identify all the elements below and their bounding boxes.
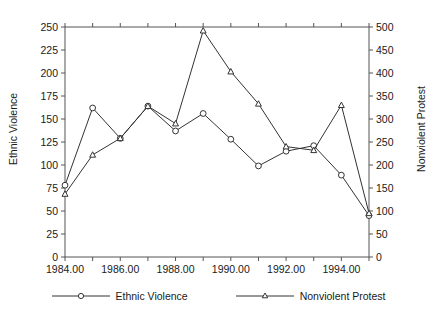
svg-text:50: 50 [376, 228, 388, 240]
svg-text:400: 400 [376, 67, 394, 79]
svg-text:50: 50 [46, 205, 58, 217]
svg-text:1988.00: 1988.00 [157, 263, 195, 275]
svg-text:150: 150 [376, 182, 394, 194]
svg-text:500: 500 [376, 21, 394, 33]
svg-text:1994.00: 1994.00 [322, 263, 360, 275]
legend-swatch-circle-icon [52, 290, 110, 302]
svg-text:0: 0 [376, 251, 382, 263]
legend-label-ethnic-violence: Ethnic Violence [116, 290, 188, 302]
chart-container: Ethnic Violence Nonviolent Protest 02550… [0, 0, 437, 318]
svg-text:0: 0 [52, 251, 58, 263]
svg-text:450: 450 [376, 44, 394, 56]
svg-text:225: 225 [40, 44, 58, 56]
legend-swatch-triangle-icon [236, 290, 294, 302]
svg-text:75: 75 [46, 182, 58, 194]
legend-item-ethnic-violence[interactable]: Ethnic Violence [52, 290, 188, 302]
plot-frame [65, 27, 369, 257]
svg-text:25: 25 [46, 228, 58, 240]
legend-label-nonviolent-protest: Nonviolent Protest [300, 290, 386, 302]
chart-plot-area: 0255075100125150175200225250 05010015020… [0, 0, 437, 318]
legend-item-nonviolent-protest[interactable]: Nonviolent Protest [236, 290, 386, 302]
y-axis-left-ticks: 0255075100125150175200225250 [40, 21, 65, 263]
y-axis-right-ticks: 050100150200250300350400450500 [369, 21, 394, 263]
svg-text:200: 200 [40, 67, 58, 79]
svg-text:250: 250 [40, 21, 58, 33]
svg-text:350: 350 [376, 90, 394, 102]
svg-text:150: 150 [40, 113, 58, 125]
svg-text:125: 125 [40, 136, 58, 148]
svg-text:300: 300 [376, 113, 394, 125]
svg-text:250: 250 [376, 136, 394, 148]
svg-text:1990.00: 1990.00 [212, 263, 250, 275]
svg-text:1992.00: 1992.00 [267, 263, 305, 275]
svg-text:175: 175 [40, 90, 58, 102]
svg-text:200: 200 [376, 159, 394, 171]
svg-text:100: 100 [40, 159, 58, 171]
svg-text:100: 100 [376, 205, 394, 217]
svg-text:1984.00: 1984.00 [46, 263, 84, 275]
svg-text:1986.00: 1986.00 [101, 263, 139, 275]
chart-legend: Ethnic Violence Nonviolent Protest [0, 286, 437, 306]
